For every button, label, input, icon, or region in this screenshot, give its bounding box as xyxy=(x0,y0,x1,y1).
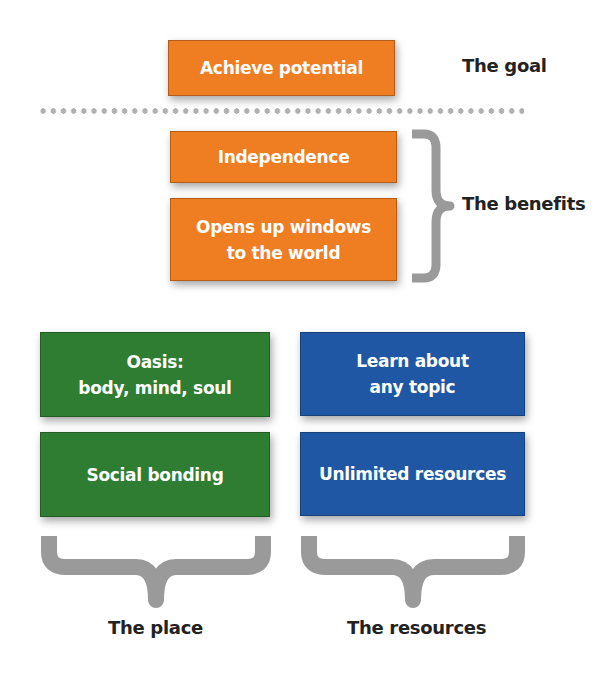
benefit-box-independence: Independence xyxy=(170,131,397,183)
resources-box-unlimited: Unlimited resources xyxy=(300,432,525,516)
benefits-caption: The benefits xyxy=(462,193,585,214)
right-brace-icon xyxy=(410,128,454,284)
place-box-social-bonding: Social bonding xyxy=(40,432,270,517)
bottom-brace-place-icon xyxy=(40,534,272,606)
goal-caption: The goal xyxy=(462,55,547,76)
resources-box-learn: Learn about any topic xyxy=(300,332,525,416)
resources-caption: The resources xyxy=(347,617,486,638)
dotted-divider xyxy=(38,108,524,114)
goal-box: Achieve potential xyxy=(168,40,395,96)
benefit-box-windows: Opens up windows to the world xyxy=(170,198,397,281)
place-caption: The place xyxy=(108,617,203,638)
place-box-oasis: Oasis: body, mind, soul xyxy=(40,332,270,417)
bottom-brace-resources-icon xyxy=(300,534,526,606)
